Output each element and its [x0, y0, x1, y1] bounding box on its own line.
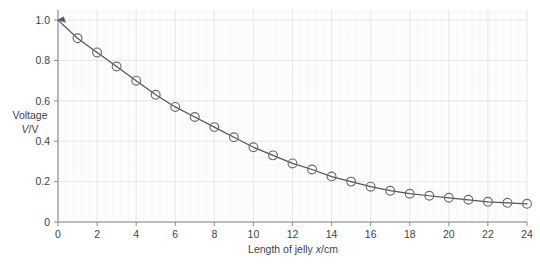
y-tick-label: 1.0: [35, 14, 50, 26]
x-axis-label: Length of jelly x/cm: [248, 243, 338, 255]
x-tick-label: 2: [94, 228, 100, 240]
y-axis-label-line1: Voltage: [12, 109, 47, 121]
x-tick-label: 0: [55, 228, 61, 240]
chart-figure: 024681012141618202224 00.20.40.60.81.0 L…: [0, 0, 540, 266]
x-axis-tick-labels: 024681012141618202224: [55, 228, 533, 240]
x-tick-label: 10: [248, 228, 260, 240]
x-tick-label: 14: [326, 228, 338, 240]
y-tick-label: 0.2: [35, 175, 50, 187]
x-tick-label: 22: [482, 228, 494, 240]
x-axis-title: Length of jelly x/cm: [248, 243, 338, 255]
y-tick-label: 0.8: [35, 54, 50, 66]
x-tick-label: 6: [172, 228, 178, 240]
y-tick-label: 0.6: [35, 95, 50, 107]
x-tick-label: 20: [443, 228, 455, 240]
voltage-vs-length-line-chart: 024681012141618202224 00.20.40.60.81.0 L…: [0, 0, 540, 266]
x-tick-label: 4: [133, 228, 139, 240]
y-tick-label: 0: [44, 216, 50, 228]
y-tick-label: 0.4: [35, 135, 50, 147]
y-axis-title: Voltage V/V: [12, 109, 47, 135]
y-axis-label-line2: V/V: [22, 123, 39, 135]
x-tick-label: 16: [365, 228, 377, 240]
x-tick-label: 18: [404, 228, 416, 240]
x-tick-label: 24: [521, 228, 533, 240]
x-tick-label: 8: [211, 228, 217, 240]
x-tick-label: 12: [287, 228, 299, 240]
